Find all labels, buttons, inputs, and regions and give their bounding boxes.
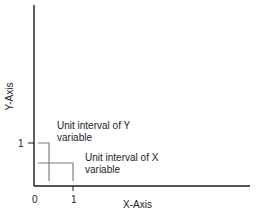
- x-interval-label-line1: Unit interval of X: [85, 152, 158, 163]
- origin-label: 0: [32, 194, 38, 205]
- y-unit-interval-bracket: [38, 143, 49, 181]
- x-interval-label-line2: variable: [85, 164, 120, 175]
- y-axis-label: Y-Axis: [4, 83, 15, 111]
- y-interval-label-line1: Unit interval of Y: [57, 120, 130, 131]
- y-tick-label: 1: [18, 138, 24, 149]
- diagram-canvas: [0, 0, 256, 215]
- x-axis-label: X-Axis: [123, 199, 152, 210]
- y-interval-label-line2: variable: [57, 132, 92, 143]
- x-unit-interval-bracket: [38, 163, 73, 181]
- x-tick-label: 1: [71, 194, 77, 205]
